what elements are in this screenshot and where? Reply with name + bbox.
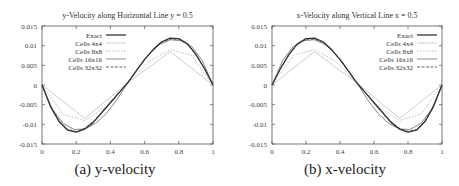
legend-label: Cells 16x16 xyxy=(68,56,102,64)
legend-label: Cells 8x8 xyxy=(75,48,102,56)
chart-panel-x-velocity: x-Velocity along Vertical Line x = 0.50.… xyxy=(230,0,459,186)
y-tick-label: -0.005 xyxy=(19,101,38,109)
x-tick-label: 0.6 xyxy=(140,148,149,156)
x-tick-label: 0.4 xyxy=(106,148,115,156)
x-tick-label: 1 xyxy=(440,148,444,156)
legend-label: Exact xyxy=(397,32,413,40)
line-chart-x-velocity: x-Velocity along Vertical Line x = 0.50.… xyxy=(230,0,459,160)
legend-label: Cells 32x32 xyxy=(68,64,102,72)
y-tick-label: 0.01 xyxy=(255,42,268,50)
legend-label: Cells 16x16 xyxy=(379,56,413,64)
y-tick-label: 0.015 xyxy=(251,23,267,31)
x-tick-label: 0.8 xyxy=(174,148,183,156)
y-tick-label: 0.015 xyxy=(21,23,37,31)
x-tick-label: 0.2 xyxy=(302,148,311,156)
y-tick-label: 0.005 xyxy=(251,62,267,70)
chart-title: x-Velocity along Vertical Line x = 0.5 xyxy=(297,11,418,20)
y-tick-label: -0.015 xyxy=(19,141,38,149)
x-tick-label: 0.2 xyxy=(72,148,81,156)
x-tick-label: 0.4 xyxy=(336,148,345,156)
x-tick-label: 0.8 xyxy=(404,148,413,156)
legend-label: Cells 32x32 xyxy=(379,64,413,72)
legend-label: Cells 4x4 xyxy=(75,40,102,48)
series-line-cells-16x16 xyxy=(272,40,442,130)
y-tick-label: 0.005 xyxy=(21,62,37,70)
y-tick-label: -0.01 xyxy=(252,121,267,129)
y-tick-label: -0.005 xyxy=(249,101,268,109)
series-line-cells-8x8 xyxy=(272,50,442,121)
legend-label: Exact xyxy=(86,32,102,40)
figure-caption-a: (a) y-velocity xyxy=(0,161,230,178)
chart-panel-y-velocity: y-Velocity along Horizontal Line y = 0.5… xyxy=(0,0,230,186)
x-tick-label: 0.6 xyxy=(370,148,379,156)
x-tick-label: 1 xyxy=(211,148,215,156)
chart-title: y-Velocity along Horizontal Line y = 0.5 xyxy=(62,11,192,20)
y-tick-label: -0.015 xyxy=(249,141,268,149)
y-tick-label: 0.01 xyxy=(25,42,38,50)
y-tick-label: -0.01 xyxy=(22,121,37,129)
series-line-exact xyxy=(42,38,213,132)
series-line-cells-16x16 xyxy=(42,40,213,130)
x-tick-label: 0 xyxy=(40,148,44,156)
series-line-cells-32x32 xyxy=(42,39,213,131)
line-chart-y-velocity: y-Velocity along Horizontal Line y = 0.5… xyxy=(0,0,230,160)
figure-caption-b: (b) x-velocity xyxy=(230,161,459,178)
series-line-exact xyxy=(272,38,442,132)
y-tick-label: 0 xyxy=(264,82,268,90)
legend-label: Cells 8x8 xyxy=(386,48,413,56)
x-tick-label: 0 xyxy=(270,148,274,156)
y-tick-label: 0 xyxy=(34,82,38,90)
series-line-cells-32x32 xyxy=(272,39,442,131)
series-line-cells-4x4 xyxy=(272,52,442,119)
legend-label: Cells 4x4 xyxy=(386,40,413,48)
